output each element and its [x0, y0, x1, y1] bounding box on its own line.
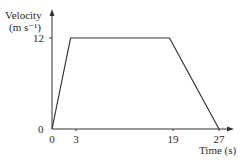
x-tick-label-3: 3	[73, 134, 79, 145]
y-axis-label-line1: Velocity	[5, 10, 42, 21]
x-axis-label: Time (s)	[199, 145, 236, 156]
y-tick-label-0: 0	[38, 124, 44, 135]
x-axis-arrow-icon	[227, 127, 234, 132]
x-tick-label-0: 0	[49, 134, 55, 145]
velocity-line	[52, 38, 219, 129]
y-axis-arrow-icon	[50, 9, 55, 16]
y-tick-label-12: 12	[33, 33, 44, 44]
x-tick-label-19: 19	[168, 134, 179, 145]
